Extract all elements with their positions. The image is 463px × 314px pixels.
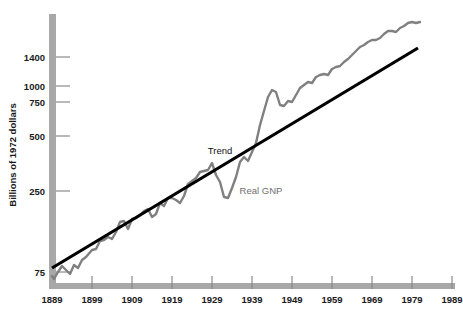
y-axis-tick-label: 75	[34, 267, 45, 278]
x-axis-tick-label: 1959	[321, 294, 342, 305]
x-axis-tick-label: 1899	[81, 294, 102, 305]
series-annotation-real-gnp: Real GNP	[240, 185, 283, 196]
series-annotation-trend: Trend	[208, 145, 232, 156]
chart-background	[0, 0, 463, 314]
y-axis-bar	[49, 14, 56, 283]
x-axis-tick-label: 1949	[281, 294, 302, 305]
gnp-trend-chart: 1400100075050025075 18891899190919191929…	[0, 0, 463, 314]
y-axis-title: Billions of 1972 dollars	[7, 103, 18, 206]
x-axis-tick-label: 1889	[41, 294, 62, 305]
chart-figure: 1400100075050025075 18891899190919191929…	[0, 0, 463, 314]
x-axis-tick-label: 1919	[161, 294, 182, 305]
x-axis-tick-label: 1939	[241, 294, 262, 305]
x-axis-tick-label: 1909	[121, 294, 142, 305]
y-axis-tick-label: 500	[29, 131, 45, 142]
y-axis-tick-label: 1400	[24, 52, 45, 63]
x-axis-tick-label: 1969	[361, 294, 382, 305]
y-axis-tick-label: 1000	[24, 81, 45, 92]
x-axis-tick-label: 1989	[441, 294, 462, 305]
y-axis-tick-label: 250	[29, 186, 45, 197]
y-axis-tick-label: 750	[29, 97, 45, 108]
x-axis-tick-label: 1929	[201, 294, 222, 305]
x-axis-tick-label: 1979	[401, 294, 422, 305]
